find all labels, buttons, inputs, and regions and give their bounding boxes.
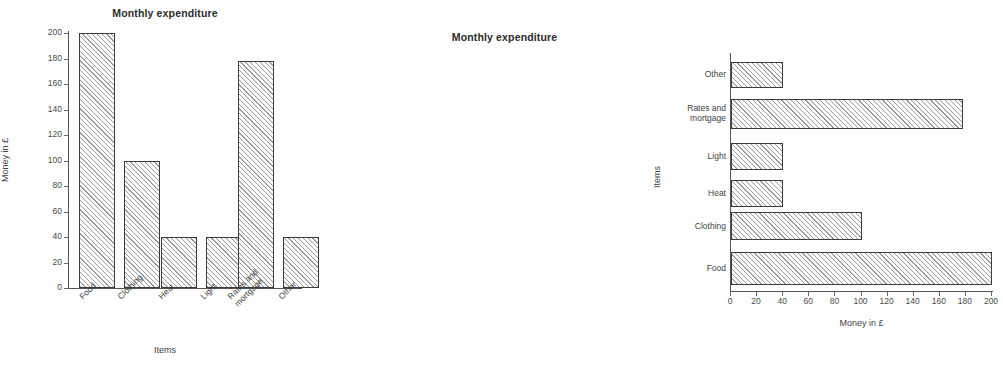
y-tick-label-180: 180 (36, 54, 62, 63)
y-tick-mark-120 (64, 135, 68, 136)
x-tick-label-200: 200 (979, 297, 1003, 306)
x-tick-label-60: 60 (796, 297, 820, 306)
x-tick-label-180: 180 (953, 297, 977, 306)
horizontal-chart-x-axis-title: Money in £ (730, 318, 993, 328)
horizontal-chart-title: Monthly expenditure (330, 31, 679, 43)
y-tick-label-100: 100 (36, 156, 62, 165)
y-tick-mark-0 (64, 288, 68, 289)
vertical-chart-y-axis-title: Money in £ (0, 138, 10, 182)
x-tick-label-40: 40 (770, 297, 794, 306)
x-tick-label-140: 140 (901, 297, 925, 306)
y-category-label-other: Other (664, 70, 726, 80)
y-tick-label-60: 60 (36, 207, 62, 216)
x-tick-label-160: 160 (927, 297, 951, 306)
y-tick-label-160: 160 (36, 79, 62, 88)
y-tick-mark-60 (64, 212, 68, 213)
vertical-chart-y-axis-line (68, 31, 69, 289)
y-category-label-light: Light (664, 152, 726, 162)
bar-rates-and-mortgage[interactable] (731, 99, 963, 129)
y-tick-mark-180 (64, 59, 68, 60)
y-tick-label-200: 200 (36, 28, 62, 37)
bar-light[interactable] (206, 237, 242, 288)
bar-light[interactable] (731, 143, 783, 170)
y-tick-mark-100 (64, 161, 68, 162)
y-tick-label-40: 40 (36, 232, 62, 241)
y-category-label-rates-and-mortgage: Rates and mortgage (664, 104, 726, 123)
y-tick-label-120: 120 (36, 130, 62, 139)
y-category-label-rates-line2: mortgage (690, 113, 726, 123)
horizontal-chart-x-axis-line (730, 291, 993, 292)
vertical-chart-x-axis-line (68, 288, 302, 289)
bar-food[interactable] (79, 33, 115, 288)
y-tick-label-20: 20 (36, 258, 62, 267)
y-tick-mark-20 (64, 263, 68, 264)
x-category-label-light: Light (199, 282, 219, 302)
y-tick-label-80: 80 (36, 181, 62, 190)
x-category-label-other: Other (277, 280, 299, 302)
y-tick-mark-160 (64, 84, 68, 85)
y-category-label-clothing: Clothing (664, 222, 726, 232)
bar-heat[interactable] (161, 237, 197, 288)
vertical-chart-x-axis-title: Items (0, 345, 330, 355)
x-tick-label-80: 80 (822, 297, 846, 306)
horizontal-bar-chart: Monthly expenditure 0 20 40 60 80 100 12… (330, 0, 679, 365)
x-tick-label-100: 100 (849, 297, 873, 306)
bar-clothing[interactable] (731, 212, 862, 240)
vertical-bar-chart: Monthly expenditure 200 180 160 140 120 … (0, 0, 330, 365)
bar-clothing[interactable] (124, 161, 160, 289)
x-tick-label-20: 20 (744, 297, 768, 306)
y-category-label-food: Food (664, 264, 726, 274)
y-tick-mark-200 (64, 33, 68, 34)
vertical-chart-title: Monthly expenditure (0, 7, 330, 19)
horizontal-chart-y-axis-title: Items (652, 166, 662, 188)
x-tick-label-120: 120 (875, 297, 899, 306)
bar-heat[interactable] (731, 180, 783, 207)
bar-rates-and-mortgage[interactable] (238, 61, 274, 288)
y-category-label-heat: Heat (664, 189, 726, 199)
y-tick-label-140: 140 (36, 105, 62, 114)
y-category-label-rates-line1: Rates and (687, 103, 726, 113)
y-tick-mark-40 (64, 237, 68, 238)
x-tick-label-0: 0 (718, 297, 742, 306)
bar-food[interactable] (731, 252, 992, 285)
y-tick-mark-140 (64, 110, 68, 111)
bar-other[interactable] (731, 62, 783, 88)
y-tick-mark-80 (64, 186, 68, 187)
